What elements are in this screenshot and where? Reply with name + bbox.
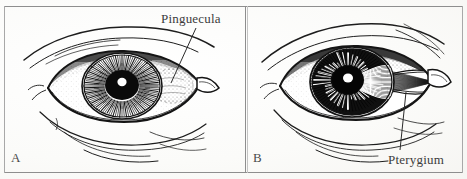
frame-bottom-border [4, 172, 463, 173]
frame-left-border [4, 6, 5, 173]
panel-divider [245, 6, 246, 173]
panel-a-letter: A [11, 150, 21, 166]
panel-b-letter: B [253, 150, 262, 166]
frame-top-border [4, 6, 463, 7]
panel-divider-shadow [247, 6, 248, 173]
pinguecula-label: Pinguecula [161, 11, 221, 27]
figure-container: Pinguecula Pterygium A B [0, 0, 467, 179]
pterygium-label: Pterygium [388, 152, 444, 168]
frame-right-border [462, 6, 463, 173]
